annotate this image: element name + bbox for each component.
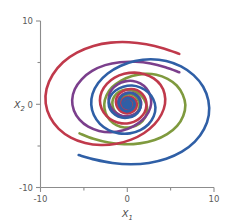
y-tick-label-10: 10 bbox=[22, 16, 33, 26]
x-axis-title-subscript: 1 bbox=[128, 214, 132, 222]
x-tick-label-10: 10 bbox=[209, 194, 220, 204]
phase-portrait-figure: 10 0 -10 -10 0 10 X2 X1 bbox=[0, 0, 227, 223]
x-tick-label-neg10: -10 bbox=[34, 194, 48, 204]
y-tick-label-0: 0 bbox=[28, 100, 33, 110]
x-tick-label-0: 0 bbox=[125, 194, 130, 204]
y-axis-title-subscript: 2 bbox=[21, 105, 25, 113]
phase-portrait-svg: 10 0 -10 -10 0 10 X2 X1 bbox=[0, 0, 227, 223]
y-tick-label-neg10: -10 bbox=[19, 183, 33, 193]
